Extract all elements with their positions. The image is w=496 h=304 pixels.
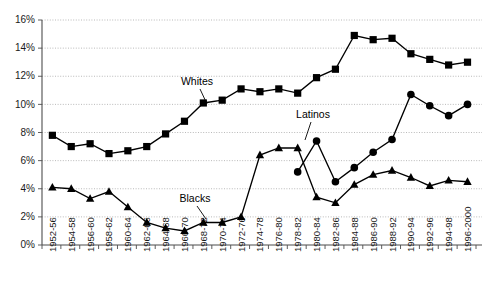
gridlines-group bbox=[42, 20, 482, 217]
x-tick-label: 1982-86 bbox=[330, 217, 341, 252]
x-tick-label: 1972-76 bbox=[236, 217, 247, 252]
marker-latinos-21 bbox=[445, 112, 453, 120]
marker-blacks-0 bbox=[48, 183, 56, 191]
x-tick-label: 1966-70 bbox=[179, 217, 190, 252]
marker-blacks-18 bbox=[388, 166, 396, 174]
x-tick-label: 1988-92 bbox=[387, 217, 398, 252]
x-tick-label: 1974-78 bbox=[254, 217, 265, 252]
marker-whites-0 bbox=[49, 132, 56, 139]
marker-whites-7 bbox=[181, 118, 188, 125]
marker-whites-6 bbox=[162, 130, 169, 137]
x-tick-label: 1986-90 bbox=[368, 217, 379, 252]
line-chart: 0%2%4%6%8%10%12%14%16% 1952-561954-58195… bbox=[0, 0, 496, 304]
marker-whites-22 bbox=[464, 59, 471, 66]
marker-whites-12 bbox=[275, 85, 282, 92]
marker-whites-16 bbox=[351, 32, 358, 39]
x-tick-label: 1976-80 bbox=[273, 217, 284, 252]
x-tick-label: 1952-56 bbox=[47, 217, 58, 252]
marker-whites-10 bbox=[237, 85, 244, 92]
marker-whites-4 bbox=[124, 147, 131, 154]
x-tick-label: 1954-58 bbox=[66, 217, 77, 252]
marker-blacks-16 bbox=[350, 180, 358, 188]
marker-blacks-3 bbox=[105, 187, 113, 195]
x-tick-label: 1984-88 bbox=[349, 217, 360, 252]
marker-whites-17 bbox=[370, 36, 377, 43]
x-tick-label: 1978-82 bbox=[292, 217, 303, 252]
marker-blacks-21 bbox=[444, 176, 452, 184]
marker-whites-15 bbox=[332, 66, 339, 73]
marker-whites-9 bbox=[219, 97, 226, 104]
marker-whites-5 bbox=[143, 143, 150, 150]
marker-latinos-17 bbox=[369, 148, 377, 156]
marker-whites-11 bbox=[256, 88, 263, 95]
y-tick-label: 14% bbox=[15, 42, 35, 53]
y-tick-label: 2% bbox=[21, 211, 36, 222]
marker-whites-19 bbox=[407, 50, 414, 57]
marker-whites-21 bbox=[445, 61, 452, 68]
x-tick-label: 1980-84 bbox=[311, 217, 322, 252]
y-tick-label: 6% bbox=[21, 155, 36, 166]
series-annotations-group: WhitesBlacksLatinos bbox=[180, 75, 330, 219]
y-tick-label: 12% bbox=[15, 70, 35, 81]
y-tick-label: 16% bbox=[15, 14, 35, 25]
x-tick-label: 1960-64 bbox=[122, 217, 133, 252]
marker-latinos-16 bbox=[350, 164, 358, 172]
series-annotation-latinos: Latinos bbox=[296, 108, 330, 120]
leader-line-latinos bbox=[305, 122, 311, 140]
series-annotation-whites: Whites bbox=[181, 75, 213, 87]
y-tick-label: 10% bbox=[15, 99, 35, 110]
marker-whites-20 bbox=[426, 56, 433, 63]
marker-latinos-18 bbox=[388, 136, 396, 144]
marker-latinos-13 bbox=[294, 168, 302, 176]
marker-latinos-15 bbox=[332, 178, 340, 186]
marker-latinos-14 bbox=[313, 137, 321, 145]
chart-container: 0%2%4%6%8%10%12%14%16% 1952-561954-58195… bbox=[0, 0, 496, 304]
x-tick-label: 1964-68 bbox=[160, 217, 171, 252]
x-tick-label: 1994-98 bbox=[443, 217, 454, 252]
x-tick-label: 1956-60 bbox=[85, 217, 96, 252]
marker-whites-13 bbox=[294, 90, 301, 97]
marker-whites-14 bbox=[313, 74, 320, 81]
marker-latinos-19 bbox=[407, 91, 415, 99]
x-tick-label: 1996-2000 bbox=[462, 207, 473, 252]
marker-blacks-14 bbox=[312, 193, 320, 201]
series-lines-group bbox=[52, 35, 467, 230]
x-tick-label: 1958-62 bbox=[103, 217, 114, 252]
marker-whites-3 bbox=[105, 150, 112, 157]
marker-latinos-22 bbox=[464, 101, 472, 109]
marker-latinos-20 bbox=[426, 102, 434, 110]
marker-whites-8 bbox=[200, 99, 207, 106]
y-tick-label: 4% bbox=[21, 183, 36, 194]
x-tick-label: 1992-96 bbox=[424, 217, 435, 252]
marker-whites-1 bbox=[68, 143, 75, 150]
marker-blacks-10 bbox=[237, 212, 245, 220]
y-tick-labels-group: 0%2%4%6%8%10%12%14%16% bbox=[15, 14, 35, 250]
series-markers-group bbox=[48, 32, 471, 234]
x-tick-labels-group: 1952-561954-581956-601958-621960-641962-… bbox=[47, 207, 473, 252]
y-tick-label: 0% bbox=[21, 239, 36, 250]
x-tick-label: 1990-94 bbox=[405, 217, 416, 252]
marker-whites-18 bbox=[388, 35, 395, 42]
series-annotation-blacks: Blacks bbox=[180, 192, 211, 204]
y-tick-label: 8% bbox=[21, 127, 36, 138]
marker-whites-2 bbox=[87, 140, 94, 147]
